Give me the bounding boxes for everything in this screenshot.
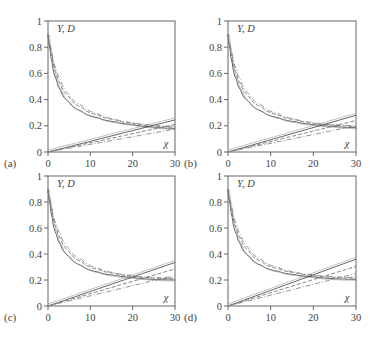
series-line [48,124,175,152]
series-line [228,189,356,278]
plot-frame [48,176,175,306]
series-line [228,257,356,304]
y-tick-label: 0.2 [29,275,42,286]
series-line [48,260,175,304]
series-line [48,262,175,306]
series-line [48,189,175,280]
series-line [48,269,175,306]
y-tick-label: 0.6 [209,68,222,79]
x-axis-title: χ [163,292,169,303]
y-tick-label: 0.8 [29,42,42,53]
y-tick-label: 1 [217,171,222,182]
y-tick-label: 0 [217,147,222,158]
y-axis-title: Y, D [57,178,75,189]
panel-label: (a) [4,157,17,170]
x-tick-label: 20 [308,312,319,323]
x-tick-label: 30 [170,312,181,323]
x-tick-label: 20 [308,158,319,169]
x-axis-title: χ [163,138,169,149]
y-axis-title: Y, D [237,23,255,34]
series-line [48,34,175,127]
y-tick-label: 0.4 [29,94,43,105]
series-line [228,34,356,128]
series-line [228,113,356,150]
panel-label: (b) [184,157,197,170]
y-tick-label: 0.6 [209,223,222,234]
panel-a: 00.20.40.60.810102030Y, Dχ(a) [4,16,180,171]
series-line [48,129,175,152]
y-tick-label: 0.4 [29,249,43,260]
y-tick-label: 0.4 [209,249,223,260]
x-axis-title: χ [344,138,350,149]
y-axis-title: Y, D [237,178,255,189]
y-tick-label: 1 [217,16,222,27]
panel-label: (c) [4,311,17,324]
series-line [50,35,177,129]
series-line [50,190,177,281]
x-tick-label: 20 [127,312,138,323]
y-tick-label: 0.6 [29,68,42,79]
y-tick-label: 0 [37,301,42,312]
x-tick-label: 10 [85,158,96,169]
x-tick-label: 0 [225,312,230,323]
y-tick-label: 0.8 [29,197,42,208]
x-axis-title: χ [344,292,350,303]
y-tick-label: 0.2 [209,275,222,286]
panel-c: 00.20.40.60.810102030Y, Dχ(c) [4,171,180,325]
series-line [48,275,175,306]
series-line [48,34,175,128]
series-line [48,189,175,279]
x-tick-label: 10 [265,312,276,323]
series-line [48,34,175,126]
x-tick-label: 0 [225,158,230,169]
y-tick-label: 0.2 [209,120,222,131]
series-line [228,34,356,126]
series-line [48,118,175,150]
series-line [228,259,356,306]
y-tick-label: 0 [37,147,42,158]
y-axis-title: Y, D [57,23,75,34]
series-line [228,126,356,152]
y-tick-label: 1 [37,16,42,27]
x-tick-label: 20 [127,158,138,169]
figure: 00.20.40.60.810102030Y, Dχ(a) 00.20.40.6… [0,0,373,342]
y-tick-label: 0.8 [209,197,222,208]
series-line [230,35,358,129]
y-tick-label: 0.8 [209,42,222,53]
plot-frame [48,21,175,152]
x-tick-label: 30 [170,158,181,169]
x-tick-label: 30 [351,312,362,323]
panel-b: 00.20.40.60.810102030Y, Dχ(b) [184,16,361,171]
series-line [48,189,175,278]
y-tick-label: 0.6 [29,223,42,234]
y-tick-label: 1 [37,171,42,182]
series-line [228,34,356,126]
series-line [230,190,358,280]
x-tick-label: 10 [85,312,96,323]
plot-frame [228,21,356,152]
series-line [228,115,356,152]
panel-label: (d) [184,311,197,324]
y-tick-label: 0.4 [209,94,223,105]
x-tick-label: 0 [45,312,50,323]
x-tick-label: 0 [45,158,50,169]
panel-d: 00.20.40.60.810102030Y, Dχ(d) [184,171,361,325]
y-tick-label: 0 [217,301,222,312]
series-line [228,274,356,307]
series-line [48,120,175,152]
y-tick-label: 0.2 [29,120,42,131]
x-tick-label: 10 [265,158,276,169]
x-tick-label: 30 [351,158,362,169]
